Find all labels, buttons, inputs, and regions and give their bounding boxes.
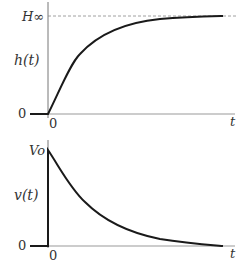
- top-x-zero-label: 0: [49, 116, 57, 131]
- top-y-zero-label: 0: [18, 106, 26, 121]
- top-panel: H∞ h(t) 0 0 t: [14, 2, 236, 131]
- h-axis-label: h(t): [14, 52, 40, 68]
- diagram: H∞ h(t) 0 0 t Vo v(t) 0 0 t: [0, 0, 248, 275]
- peak-label: Vo: [29, 143, 45, 158]
- bottom-y-zero-label: 0: [18, 238, 26, 253]
- v-curve: [30, 150, 223, 246]
- bottom-x-zero-label: 0: [49, 248, 57, 263]
- v-axis-label: v(t): [14, 187, 38, 203]
- asymptote-label: H∞: [21, 9, 44, 24]
- bottom-t-label: t: [230, 246, 236, 261]
- top-t-label: t: [230, 114, 236, 129]
- h-curve: [30, 16, 223, 114]
- bottom-panel: Vo v(t) 0 0 t: [14, 140, 236, 263]
